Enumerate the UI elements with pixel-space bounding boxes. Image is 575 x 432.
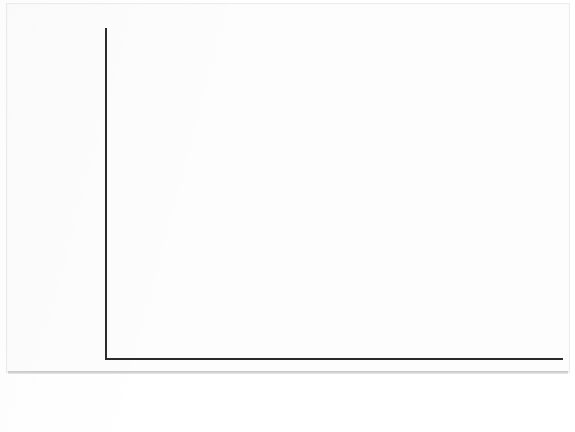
temperature-series [107, 30, 562, 358]
x-axis-line [105, 358, 563, 360]
y-axis-tick-labels [52, 0, 102, 372]
y-axis-line [105, 28, 107, 360]
plot-area [107, 30, 562, 358]
temperature-anomaly-chart [0, 0, 575, 372]
figure-root [0, 0, 575, 432]
x-axis-tick-labels [0, 362, 575, 390]
